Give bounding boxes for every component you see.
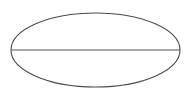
figure-canvas bbox=[0, 0, 191, 99]
ellipse-diagram-svg bbox=[0, 0, 191, 99]
